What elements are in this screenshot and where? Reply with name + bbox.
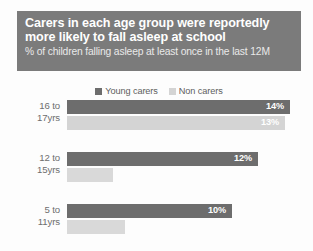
chart-title: Carers in each age group were reportedly… (25, 16, 293, 44)
bar-row-young-carers: 10% (67, 204, 307, 218)
bar-value-young-carers-16-to-17yrs: 14% (266, 101, 284, 111)
category-label-12-to-15yrs: 12 to 15yrs (0, 152, 60, 176)
legend-swatch-young-carers-icon (95, 88, 102, 95)
bar-value-young-carers-12-to-15yrs: 12% (234, 153, 252, 163)
bar-value-young-carers-5-to-11yrs: 10% (208, 205, 226, 215)
bars-16-to-17yrs: 14% 13% (67, 100, 307, 136)
bar-young-carers-16-to-17yrs[interactable] (67, 100, 290, 114)
bar-non-carers-12-to-15yrs[interactable] (67, 168, 113, 182)
legend-swatch-non-carers-icon (169, 88, 176, 95)
bar-young-carers-12-to-15yrs[interactable] (67, 152, 258, 166)
bar-value-non-carers-16-to-17yrs: 13% (261, 117, 279, 127)
chart-header-banner: Carers in each age group were reportedly… (17, 11, 301, 71)
bar-row-young-carers: 14% (67, 100, 307, 114)
legend-item-non-carers: Non carers (169, 86, 223, 96)
bar-group-5-to-11yrs: 5 to 11yrs 10% (0, 204, 313, 240)
category-label-5-to-11yrs: 5 to 11yrs (0, 204, 60, 228)
bar-non-carers-16-to-17yrs[interactable] (67, 116, 285, 130)
legend-label-non-carers: Non carers (179, 86, 223, 96)
category-label-16-to-17yrs: 16 to 17yrs (0, 100, 60, 124)
bar-group-12-to-15yrs: 12 to 15yrs 12% (0, 152, 313, 188)
bars-5-to-11yrs: 10% (67, 204, 307, 240)
bar-row-non-carers (67, 168, 307, 182)
bar-row-non-carers: 13% (67, 116, 307, 130)
bar-non-carers-5-to-11yrs[interactable] (67, 220, 125, 234)
bars-12-to-15yrs: 12% (67, 152, 307, 188)
chart-card: Carers in each age group were reportedly… (0, 0, 313, 251)
legend-label-young-carers: Young carers (105, 86, 158, 96)
bar-group-16-to-17yrs: 16 to 17yrs 14% 13% (0, 100, 313, 136)
bar-row-young-carers: 12% (67, 152, 307, 166)
bar-row-non-carers (67, 220, 307, 234)
chart-plot-area: 16 to 17yrs 14% 13% 12 to 15yrs 12% (0, 100, 313, 251)
chart-legend: Young carers Non carers (17, 84, 301, 98)
chart-subtitle: % of children falling asleep at least on… (25, 46, 293, 58)
legend-item-young-carers: Young carers (95, 86, 158, 96)
